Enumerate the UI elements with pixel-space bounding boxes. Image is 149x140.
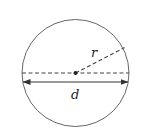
radius-dashed-line bbox=[76, 48, 125, 74]
diameter-label: d bbox=[71, 87, 79, 102]
center-point bbox=[74, 71, 78, 75]
circle-diagram: r d bbox=[0, 0, 149, 140]
radius-label: r bbox=[91, 45, 98, 60]
